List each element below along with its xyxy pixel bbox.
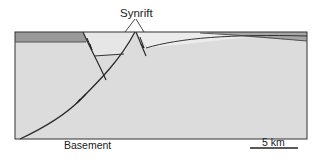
basement-body-lower <box>15 70 307 139</box>
basement-label: Basement <box>64 140 111 151</box>
synrift-label: Synrift <box>120 8 153 20</box>
synrift-pointer-left <box>125 19 135 32</box>
synrift-pointer-right <box>136 19 144 32</box>
prerift-layer-left <box>15 32 87 42</box>
scale-bar-label: 5 km <box>262 137 285 148</box>
